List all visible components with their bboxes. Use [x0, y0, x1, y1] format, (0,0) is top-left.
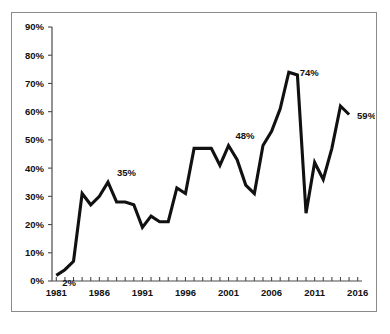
y-axis-tick-label: 80% [25, 50, 45, 61]
y-axis-tick-label: 50% [25, 134, 45, 145]
y-axis-tick-label: 0% [30, 275, 44, 286]
figure-container: 0%10%20%30%40%50%60%70%80%90% 1981198619… [0, 0, 390, 334]
x-axis-tick-label: 2011 [304, 287, 325, 298]
line-chart: 0%10%20%30%40%50%60%70%80%90% 1981198619… [12, 13, 375, 310]
x-axis-tick-label: 1991 [132, 287, 154, 298]
x-axis-tick-label: 1996 [175, 287, 196, 298]
x-axis-tick-label: 2016 [347, 287, 368, 298]
data-series-line [56, 72, 349, 275]
y-axis-tick-label: 10% [25, 247, 45, 258]
x-axis-tick-label: 1986 [89, 287, 110, 298]
x-axis-tick-label: 2006 [261, 287, 282, 298]
data-point-label: 74% [300, 67, 320, 78]
data-point-label: 35% [117, 167, 137, 178]
y-axis-tick-label: 90% [25, 21, 45, 32]
y-axis-tick-labels: 0%10%20%30%40%50%60%70%80%90% [25, 21, 45, 286]
y-axis-tick-label: 70% [25, 78, 45, 89]
y-axis-tick-label: 20% [25, 219, 45, 230]
data-point-labels: 2%35%48%74%59% [62, 67, 375, 288]
caption-strip [11, 320, 377, 332]
y-axis-tick-label: 60% [25, 106, 45, 117]
chart-frame: 0%10%20%30%40%50%60%70%80%90% 1981198619… [11, 12, 377, 312]
x-axis-tick-label: 1981 [46, 287, 68, 298]
x-axis-tick-labels: 19811986199119962001200620112016 [46, 287, 369, 298]
y-axis-tick-label: 30% [25, 191, 45, 202]
data-point-label: 59% [357, 110, 375, 121]
data-point-label: 2% [62, 277, 76, 288]
y-axis-tick-label: 40% [25, 163, 45, 174]
x-axis-tick-label: 2001 [218, 287, 240, 298]
data-point-label: 48% [236, 130, 256, 141]
